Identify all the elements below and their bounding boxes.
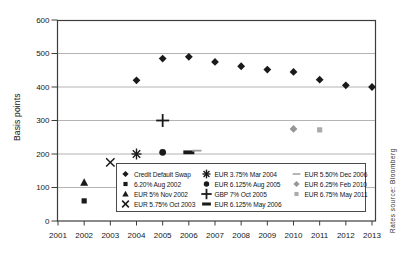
y-tick-label: 100 bbox=[36, 183, 50, 192]
legend-item-label: 6.20% Aug 2002 bbox=[134, 181, 181, 188]
point-eur-6-25-feb-2010 bbox=[290, 125, 298, 133]
y-tick-label: 200 bbox=[36, 150, 50, 159]
point-eur-5-nov-2002 bbox=[80, 178, 88, 185]
x-tick-label: 2009 bbox=[258, 231, 276, 240]
point-credit-default-swap bbox=[316, 76, 324, 84]
point-gbp-7-oct-2005 bbox=[156, 114, 169, 127]
x-tick-label: 2007 bbox=[206, 231, 224, 240]
point-credit-default-swap bbox=[211, 58, 219, 66]
x-tick-label: 2004 bbox=[128, 231, 146, 240]
x-tick-label: 2013 bbox=[363, 231, 381, 240]
legend-item-eur-3-75-mar-2004: EUR 3.75% Mar 2004 bbox=[200, 169, 282, 179]
point-credit-default-swap bbox=[185, 53, 193, 61]
legend-marker-glyph bbox=[123, 182, 127, 186]
point-credit-default-swap bbox=[368, 83, 376, 91]
legend-item-gbp-7-oct-2005: GBP 7% Oct 2005 bbox=[200, 189, 282, 199]
legend-marker-glyph bbox=[292, 173, 300, 174]
point-credit-default-swap bbox=[342, 81, 350, 89]
point-credit-default-swap bbox=[133, 76, 141, 84]
point-credit-default-swap bbox=[237, 62, 245, 70]
point-eur-5-50-dec-2006 bbox=[192, 150, 202, 152]
x-marker-icon bbox=[119, 199, 132, 209]
x-tick-label: 2006 bbox=[180, 231, 198, 240]
x-tick-label: 2005 bbox=[154, 231, 172, 240]
point-eur-5-75-oct-2003 bbox=[106, 158, 114, 166]
legend-item-6-20-aug-2002: 6.20% Aug 2002 bbox=[119, 179, 195, 189]
x-tick-label: 2008 bbox=[232, 231, 250, 240]
x-tick-label: 2010 bbox=[285, 231, 303, 240]
legend-item-label: EUR 6.125% May 2006 bbox=[215, 201, 282, 208]
legend-item-label: EUR 6.25% Feb 2010 bbox=[305, 181, 367, 188]
legend-marker-glyph bbox=[202, 170, 210, 179]
thick-dash-marker-icon bbox=[200, 199, 213, 209]
legend-item-eur-6-125-may-2006: EUR 6.125% May 2006 bbox=[200, 199, 282, 209]
legend-item-eur-6-75-may-2011: EUR 6.75% May 2011 bbox=[290, 189, 368, 199]
point-credit-default-swap bbox=[263, 66, 271, 74]
legend-item-label: EUR 5.50% Dec 2006 bbox=[305, 171, 368, 178]
legend-item-credit-default-swap: Credit Default Swap bbox=[119, 169, 195, 179]
x-tick-label: 2011 bbox=[311, 231, 329, 240]
legend-column: EUR 3.75% Mar 2004EUR 6.125% Aug 2005GBP… bbox=[200, 169, 282, 209]
legend-marker-glyph bbox=[203, 181, 208, 186]
legend-marker-glyph bbox=[294, 192, 298, 196]
legend-marker-glyph bbox=[122, 191, 128, 197]
legend-item-label: EUR 6.125% Aug 2005 bbox=[215, 181, 281, 188]
point-credit-default-swap bbox=[159, 55, 167, 63]
legend-item-label: GBP 7% Oct 2005 bbox=[215, 191, 267, 198]
legend-item-eur-5-nov-2002: EUR 5% Nov 2002 bbox=[119, 189, 195, 199]
legend-item-eur-6-25-feb-2010: EUR 6.25% Feb 2010 bbox=[290, 179, 368, 189]
plus-marker-icon bbox=[200, 189, 213, 199]
diamond-marker-icon bbox=[290, 179, 303, 189]
source-note: Rates source: Bloomberg bbox=[389, 148, 396, 233]
legend: Credit Default Swap6.20% Aug 2002EUR 5% … bbox=[116, 163, 366, 212]
legend-marker-glyph bbox=[293, 181, 299, 187]
triangle-marker-icon bbox=[119, 189, 132, 199]
point-6-20-aug-2002 bbox=[82, 198, 87, 203]
y-axis-title: Basis points bbox=[12, 93, 22, 141]
legend-item-label: EUR 5.75% Oct 2003 bbox=[134, 201, 195, 208]
legend-item-label: EUR 6.75% May 2011 bbox=[305, 191, 368, 198]
diamond-marker-icon bbox=[119, 169, 132, 179]
legend-item-eur-5-50-dec-2006: EUR 5.50% Dec 2006 bbox=[290, 169, 368, 179]
square-marker-icon bbox=[290, 189, 303, 199]
chart-figure: 0100200300400500600200120022003200420052… bbox=[0, 0, 406, 259]
legend-item-label: Credit Default Swap bbox=[134, 171, 191, 178]
legend-marker-glyph bbox=[201, 189, 211, 199]
point-eur-6-125-aug-2005 bbox=[159, 149, 166, 156]
point-eur-3-75-mar-2004 bbox=[132, 149, 142, 160]
y-tick-label: 600 bbox=[36, 16, 50, 25]
y-tick-label: 300 bbox=[36, 116, 50, 125]
plot-svg: 0100200300400500600200120022003200420052… bbox=[0, 0, 406, 259]
x-tick-label: 2001 bbox=[49, 231, 67, 240]
y-tick-label: 400 bbox=[36, 83, 50, 92]
asterisk-marker-icon bbox=[200, 169, 213, 179]
circle-marker-icon bbox=[200, 179, 213, 189]
legend-item-label: EUR 5% Nov 2002 bbox=[134, 191, 188, 198]
legend-item-eur-6-125-aug-2005: EUR 6.125% Aug 2005 bbox=[200, 179, 282, 189]
legend-column: Credit Default Swap6.20% Aug 2002EUR 5% … bbox=[119, 169, 195, 209]
y-tick-label: 500 bbox=[36, 49, 50, 58]
legend-marker-glyph bbox=[122, 201, 129, 208]
x-tick-label: 2002 bbox=[75, 231, 93, 240]
x-tick-label: 2012 bbox=[337, 231, 355, 240]
legend-item-label: EUR 3.75% Mar 2004 bbox=[215, 171, 277, 178]
legend-marker-glyph bbox=[122, 171, 128, 177]
square-marker-icon bbox=[119, 179, 132, 189]
dash-marker-icon bbox=[290, 169, 303, 179]
y-tick-label: 0 bbox=[45, 217, 50, 226]
legend-marker-glyph bbox=[202, 202, 211, 205]
legend-column: EUR 5.50% Dec 2006EUR 6.25% Feb 2010EUR … bbox=[290, 169, 368, 199]
legend-item-eur-5-75-oct-2003: EUR 5.75% Oct 2003 bbox=[119, 199, 195, 209]
point-eur-6-75-may-2011 bbox=[317, 127, 322, 132]
point-credit-default-swap bbox=[290, 68, 298, 76]
x-tick-label: 2003 bbox=[101, 231, 119, 240]
